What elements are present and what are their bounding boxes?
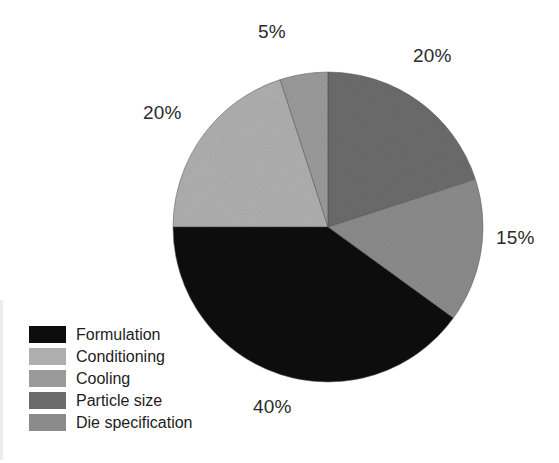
pie-chart-figure: 5% 20% 20% 15% 40% Formulation Condition… bbox=[0, 0, 559, 463]
slice-label-particle-size: 20% bbox=[413, 46, 452, 65]
slice-label-conditioning: 20% bbox=[143, 103, 182, 122]
legend-swatch-icon bbox=[29, 414, 66, 431]
legend-swatch-icon bbox=[29, 348, 66, 365]
legend-item-die-specification: Die specification bbox=[29, 412, 229, 433]
legend: Formulation Conditioning Cooling Particl… bbox=[29, 324, 229, 434]
legend-label: Cooling bbox=[76, 371, 130, 387]
legend-label: Conditioning bbox=[76, 349, 165, 365]
legend-item-cooling: Cooling bbox=[29, 368, 229, 389]
legend-swatch-icon bbox=[29, 370, 66, 387]
legend-label: Formulation bbox=[76, 327, 160, 343]
legend-swatch-icon bbox=[29, 392, 66, 409]
slice-label-die-specification: 15% bbox=[496, 228, 535, 247]
legend-item-conditioning: Conditioning bbox=[29, 346, 229, 367]
legend-label: Die specification bbox=[76, 415, 193, 431]
legend-swatch-icon bbox=[29, 326, 66, 343]
slice-label-cooling: 5% bbox=[258, 22, 286, 41]
slice-label-formulation: 40% bbox=[253, 397, 292, 416]
legend-label: Particle size bbox=[76, 393, 162, 409]
legend-item-formulation: Formulation bbox=[29, 324, 229, 345]
legend-item-particle-size: Particle size bbox=[29, 390, 229, 411]
